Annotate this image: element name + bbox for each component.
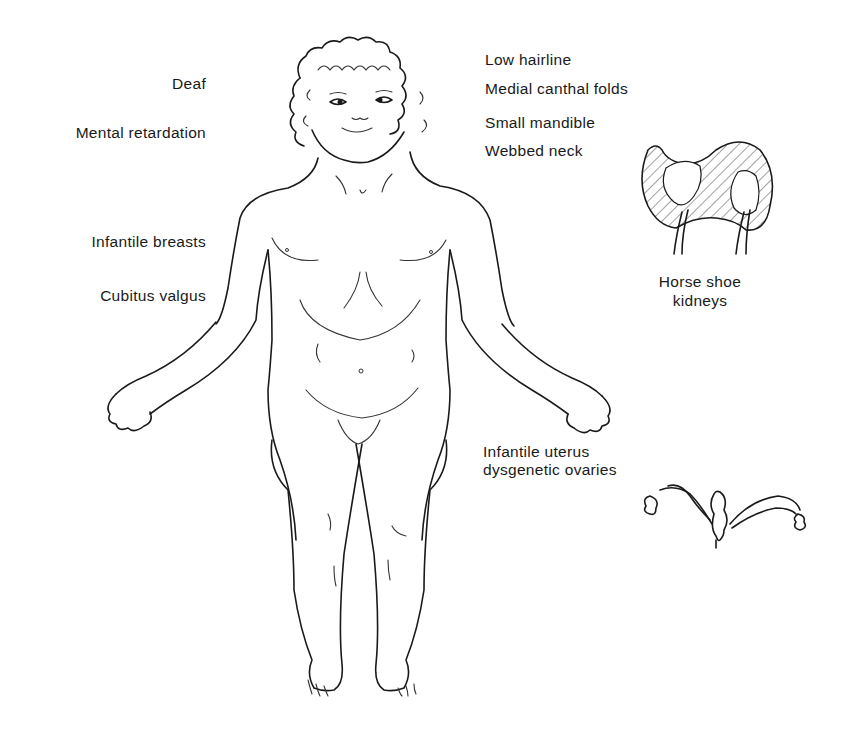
body-outline (108, 152, 610, 540)
turner-syndrome-illustration (0, 0, 851, 729)
head-icon (290, 37, 427, 162)
uterus-ovaries-icon (645, 485, 806, 548)
horseshoe-kidneys-icon (642, 142, 772, 254)
legs-outline (271, 440, 446, 696)
